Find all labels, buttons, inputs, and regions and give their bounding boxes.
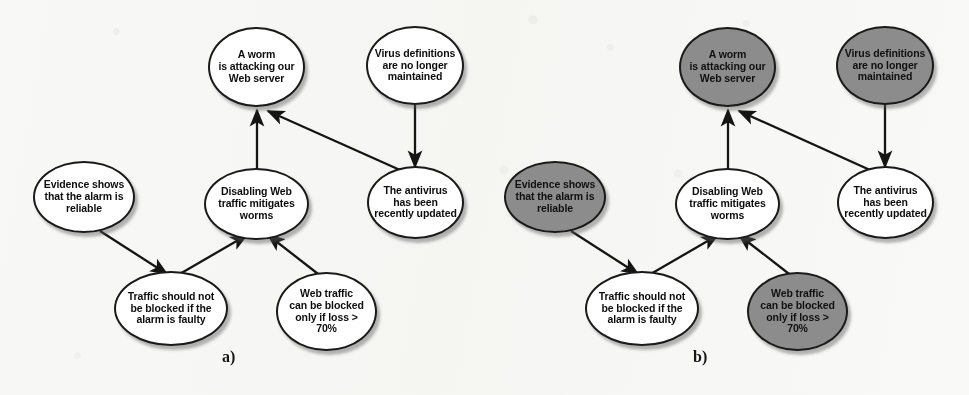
edge-trafficblock-to-disabling	[649, 235, 718, 275]
argument-graph-b: A worm is attacking our Web server Virus…	[485, 0, 969, 395]
node-worm[interactable]: A worm is attacking our Web server	[208, 27, 305, 107]
node-evidence[interactable]: Evidence shows that the alarm is reliabl…	[33, 161, 135, 233]
node-web-traffic-loss-threshold-label: Web traffic can be blocked only if loss …	[289, 288, 363, 336]
edge-webtraffic-to-disabling	[739, 235, 793, 277]
edge-evidence-to-trafficblock	[571, 231, 638, 274]
node-web-traffic-loss-threshold[interactable]: Web traffic can be blocked only if loss …	[276, 272, 377, 351]
edge-antivirus-to-worm	[739, 111, 870, 170]
node-web-traffic-loss-threshold-label: Web traffic can be blocked only if loss …	[760, 288, 834, 336]
node-traffic-should-not-be-blocked[interactable]: Traffic should not be blocked if the ala…	[585, 271, 699, 346]
node-antivirus-updated-label: The antivirus has been recently updated	[374, 185, 456, 221]
node-disabling-web-traffic[interactable]: Disabling Web traffic mitigates worms	[675, 168, 780, 240]
node-virus-definitions[interactable]: Virus definitions are no longer maintain…	[836, 26, 934, 105]
node-evidence-label: Evidence shows that the alarm is reliabl…	[515, 179, 595, 215]
node-virus-definitions[interactable]: Virus definitions are no longer maintain…	[366, 26, 464, 105]
panel-a-caption: a)	[222, 348, 235, 366]
node-traffic-should-not-be-blocked-label: Traffic should not be blocked if the ala…	[128, 291, 214, 327]
node-worm-label: A worm is attacking our Web server	[218, 49, 294, 85]
node-traffic-should-not-be-blocked-label: Traffic should not be blocked if the ala…	[599, 291, 685, 327]
node-virus-definitions-label: Virus definitions are no longer maintain…	[845, 48, 925, 84]
panel-b-caption: b)	[693, 348, 707, 366]
node-worm-label: A worm is attacking our Web server	[689, 49, 765, 85]
node-disabling-web-traffic-label: Disabling Web traffic mitigates worms	[689, 186, 766, 222]
edge-antivirus-to-worm	[268, 111, 400, 170]
node-web-traffic-loss-threshold[interactable]: Web traffic can be blocked only if loss …	[747, 272, 848, 351]
node-antivirus-updated[interactable]: The antivirus has been recently updated	[367, 166, 464, 239]
node-virus-definitions-label: Virus definitions are no longer maintain…	[375, 48, 455, 84]
node-evidence-label: Evidence shows that the alarm is reliabl…	[44, 179, 124, 215]
node-traffic-should-not-be-blocked[interactable]: Traffic should not be blocked if the ala…	[114, 271, 228, 346]
figure-panel-b: A worm is attacking our Web server Virus…	[485, 0, 969, 395]
node-antivirus-updated[interactable]: The antivirus has been recently updated	[837, 166, 934, 239]
edge-trafficblock-to-disabling	[178, 235, 247, 275]
node-disabling-web-traffic[interactable]: Disabling Web traffic mitigates worms	[204, 168, 309, 240]
node-antivirus-updated-label: The antivirus has been recently updated	[844, 185, 926, 221]
argument-graph-a: A worm is attacking our Web server Virus…	[0, 0, 485, 395]
edge-evidence-to-trafficblock	[100, 231, 167, 274]
figure-panel-a: A worm is attacking our Web server Virus…	[0, 0, 485, 395]
node-evidence[interactable]: Evidence shows that the alarm is reliabl…	[504, 161, 606, 233]
node-disabling-web-traffic-label: Disabling Web traffic mitigates worms	[218, 186, 295, 222]
edge-webtraffic-to-disabling	[268, 235, 322, 277]
node-worm[interactable]: A worm is attacking our Web server	[679, 27, 776, 107]
